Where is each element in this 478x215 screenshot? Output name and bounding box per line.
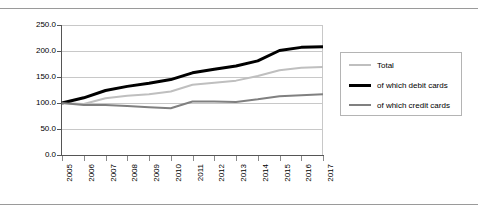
x-axis-tick-label: 2005 xyxy=(66,164,74,182)
x-axis-tick xyxy=(127,156,128,161)
chart-legend: Total of which debit cards of which cred… xyxy=(340,52,462,116)
x-axis-tick xyxy=(84,156,85,161)
legend-label-credit-cards: of which credit cards xyxy=(377,101,450,110)
x-axis-tick xyxy=(236,156,237,161)
x-axis-tick xyxy=(323,156,324,161)
legend-item-total: Total xyxy=(341,57,463,73)
bottom-divider-rule xyxy=(0,204,478,205)
y-axis-tick xyxy=(57,155,61,156)
x-axis-tick-label: 2013 xyxy=(240,164,248,182)
x-axis-tick-label: 2007 xyxy=(110,164,118,182)
y-axis-tick-label: 250.0 xyxy=(16,21,56,29)
series-line xyxy=(62,47,323,103)
x-axis-tick xyxy=(280,156,281,161)
legend-swatch-debit-cards-icon xyxy=(349,84,371,87)
legend-swatch-credit-cards-icon xyxy=(349,104,371,106)
x-axis-tick xyxy=(193,156,194,161)
x-axis-tick xyxy=(214,156,215,161)
legend-label-total: Total xyxy=(377,61,394,70)
x-axis-tick-label: 2009 xyxy=(153,164,161,182)
x-axis-tick-label: 2006 xyxy=(88,164,96,182)
x-axis-tick-label: 2010 xyxy=(175,164,183,182)
y-axis-tick-label: 0.0 xyxy=(16,151,56,159)
y-axis-tick-label: 50.0 xyxy=(16,125,56,133)
x-axis-tick xyxy=(301,156,302,161)
x-axis-tick xyxy=(258,156,259,161)
series-lines xyxy=(62,25,323,155)
y-axis-tick-label: 200.0 xyxy=(16,47,56,55)
y-axis-tick xyxy=(57,103,61,104)
x-axis-tick xyxy=(106,156,107,161)
x-axis-tick-label: 2016 xyxy=(305,164,313,182)
legend-item-debit-cards: of which debit cards xyxy=(341,77,463,93)
legend-swatch-total-icon xyxy=(349,64,371,66)
y-axis-tick xyxy=(57,129,61,130)
legend-item-credit-cards: of which credit cards xyxy=(341,97,463,113)
x-axis-tick xyxy=(149,156,150,161)
legend-label-debit-cards: of which debit cards xyxy=(377,81,448,90)
x-axis-tick-label: 2012 xyxy=(218,164,226,182)
x-axis-tick-label: 2008 xyxy=(131,164,139,182)
y-axis-tick-label: 150.0 xyxy=(16,73,56,81)
line-chart-figure: 0.050.0100.0150.0200.0250.0 200520062007… xyxy=(0,9,478,204)
x-axis-tick-label: 2011 xyxy=(197,164,205,181)
y-axis-tick xyxy=(57,25,61,26)
y-axis-tick xyxy=(57,51,61,52)
x-axis-tick-label: 2015 xyxy=(284,164,292,182)
x-axis-tick-label: 2014 xyxy=(262,164,270,182)
x-axis-tick xyxy=(62,156,63,161)
x-axis-tick-label: 2017 xyxy=(327,164,335,182)
y-axis-tick xyxy=(57,77,61,78)
series-line xyxy=(62,94,323,108)
y-axis-tick-label: 100.0 xyxy=(16,99,56,107)
x-axis-tick xyxy=(171,156,172,161)
